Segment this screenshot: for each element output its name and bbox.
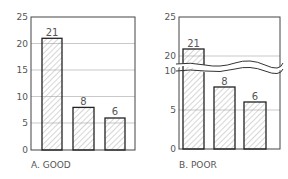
chart-a: 0 5 10 15 20 25 21 8 6 A. GOOD — [17, 12, 135, 170]
bar-3 — [105, 118, 125, 150]
svg-text:25: 25 — [17, 12, 28, 22]
svg-text:21: 21 — [187, 38, 200, 49]
svg-text:6: 6 — [112, 106, 118, 117]
svg-text:21: 21 — [46, 27, 59, 38]
svg-text:20: 20 — [165, 51, 177, 61]
svg-text:5: 5 — [170, 105, 176, 115]
svg-text:6: 6 — [252, 91, 258, 102]
svg-text:25: 25 — [165, 12, 176, 22]
bar-3 — [244, 102, 266, 149]
svg-text:20: 20 — [17, 39, 29, 49]
svg-text:8: 8 — [221, 76, 227, 87]
svg-text:15: 15 — [17, 65, 28, 75]
bar-1 — [42, 38, 62, 150]
svg-text:8: 8 — [80, 96, 86, 107]
y-axis-ticks: 0 5 10 20 25 — [165, 12, 177, 154]
svg-text:5: 5 — [22, 118, 28, 128]
chart-title: B. POOR — [179, 160, 217, 170]
y-axis-ticks: 0 5 10 15 20 25 — [17, 12, 29, 155]
svg-text:0: 0 — [22, 145, 28, 155]
chart-title: A. GOOD — [31, 160, 71, 170]
charts-canvas: 0 5 10 15 20 25 21 8 6 A. GOOD — [0, 0, 288, 179]
chart-b: 0 5 10 20 25 21 8 6 B. POOR — [165, 12, 283, 170]
svg-text:10: 10 — [165, 66, 177, 76]
bars — [42, 38, 125, 150]
bar-2 — [214, 87, 235, 149]
bar-2 — [73, 107, 94, 150]
svg-text:10: 10 — [17, 92, 29, 102]
svg-text:0: 0 — [170, 144, 176, 154]
